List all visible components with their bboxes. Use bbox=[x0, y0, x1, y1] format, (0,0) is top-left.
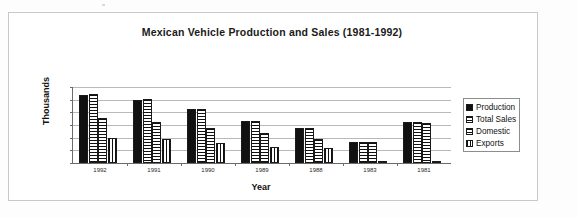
bar-production[interactable] bbox=[403, 122, 412, 163]
bar-exports[interactable] bbox=[324, 148, 333, 163]
bar-group: 1990 bbox=[181, 87, 235, 163]
x-axis-separator bbox=[343, 163, 344, 166]
bar-production[interactable] bbox=[79, 95, 88, 163]
legend-item[interactable]: Production bbox=[466, 101, 516, 113]
bar-production[interactable] bbox=[349, 142, 358, 163]
x-axis-title: Year bbox=[72, 182, 450, 192]
y-axis-tick-mark bbox=[70, 163, 73, 164]
x-axis-separator bbox=[289, 163, 290, 166]
chart-title: Mexican Vehicle Production and Sales (19… bbox=[8, 26, 536, 38]
plot-area: 1,200,0001,000,000800,000600,000400,0002… bbox=[72, 87, 451, 164]
bar-exports[interactable] bbox=[108, 138, 117, 163]
chart-page: Mexican Vehicle Production and Sales (19… bbox=[0, 0, 577, 217]
bar-exports[interactable] bbox=[270, 147, 279, 163]
bar-group: 1991 bbox=[127, 87, 181, 163]
legend-item-label: Domestic bbox=[476, 127, 510, 136]
bar-total-sales[interactable] bbox=[143, 99, 152, 163]
bar-total-sales[interactable] bbox=[413, 122, 422, 163]
bar-domestic[interactable] bbox=[422, 123, 431, 163]
x-axis-tick-label: 1990 bbox=[181, 167, 235, 173]
bar-domestic[interactable] bbox=[314, 139, 323, 163]
bar-total-sales[interactable] bbox=[89, 94, 98, 163]
bar-groups: 1992199119901989198819831981 bbox=[73, 87, 451, 163]
bar-production[interactable] bbox=[133, 100, 142, 163]
bar-domestic[interactable] bbox=[206, 128, 215, 163]
bar-total-sales[interactable] bbox=[305, 128, 314, 163]
bar-total-sales[interactable] bbox=[359, 142, 368, 163]
bar-production[interactable] bbox=[241, 121, 250, 163]
bar-domestic[interactable] bbox=[152, 122, 161, 163]
bar-exports[interactable] bbox=[432, 161, 441, 163]
y-axis-title: Thousands bbox=[41, 71, 51, 131]
bar-production[interactable] bbox=[187, 109, 196, 163]
chart-legend: ProductionTotal SalesDomesticExports bbox=[463, 98, 520, 152]
x-axis-tick-label: 1991 bbox=[127, 167, 181, 173]
bar-total-sales[interactable] bbox=[197, 109, 206, 163]
x-axis-separator bbox=[181, 163, 182, 166]
bar-group: 1992 bbox=[73, 87, 127, 163]
x-axis-separator bbox=[127, 163, 128, 166]
x-axis-tick-label: 1988 bbox=[289, 167, 343, 173]
x-axis-separator bbox=[235, 163, 236, 166]
bar-domestic[interactable] bbox=[98, 118, 107, 163]
bar-group: 1983 bbox=[343, 87, 397, 163]
x-axis-tick-label: 1992 bbox=[73, 167, 127, 173]
legend-item[interactable]: Domestic bbox=[466, 125, 516, 137]
scan-speck bbox=[102, 4, 105, 6]
legend-swatch-icon bbox=[466, 140, 473, 147]
bar-exports[interactable] bbox=[216, 143, 225, 163]
x-axis-separator bbox=[397, 163, 398, 166]
legend-item-label: Exports bbox=[476, 139, 504, 148]
legend-swatch-icon bbox=[466, 116, 473, 123]
bar-exports[interactable] bbox=[162, 139, 171, 163]
bar-group: 1988 bbox=[289, 87, 343, 163]
legend-item-label: Total Sales bbox=[476, 115, 516, 124]
bar-exports[interactable] bbox=[378, 161, 387, 163]
x-axis-tick-label: 1981 bbox=[397, 167, 451, 173]
legend-item-label: Production bbox=[476, 103, 515, 112]
legend-swatch-icon bbox=[466, 128, 473, 135]
x-axis-tick-label: 1989 bbox=[235, 167, 289, 173]
bar-domestic[interactable] bbox=[368, 142, 377, 163]
bar-domestic[interactable] bbox=[260, 133, 269, 163]
bar-total-sales[interactable] bbox=[251, 121, 260, 163]
legend-item[interactable]: Exports bbox=[466, 137, 516, 149]
legend-swatch-icon bbox=[466, 104, 473, 111]
bar-group: 1981 bbox=[397, 87, 451, 163]
x-axis-tick-label: 1983 bbox=[343, 167, 397, 173]
bar-production[interactable] bbox=[295, 128, 304, 163]
legend-item[interactable]: Total Sales bbox=[466, 113, 516, 125]
bar-group: 1989 bbox=[235, 87, 289, 163]
